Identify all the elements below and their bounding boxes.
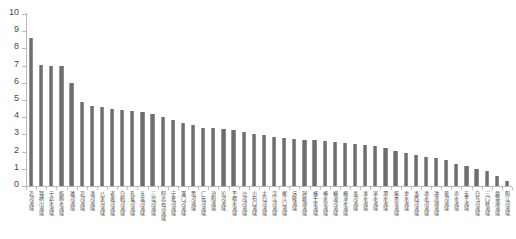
x-axis-tick-mark bbox=[178, 187, 179, 190]
bar bbox=[302, 140, 306, 186]
bar bbox=[211, 128, 215, 186]
category-label: 太白河流域 bbox=[261, 191, 266, 216]
bar bbox=[181, 123, 185, 186]
x-axis-tick-mark bbox=[158, 187, 159, 190]
bar bbox=[39, 65, 43, 186]
category-label: 平都水流域 bbox=[231, 191, 236, 216]
bar bbox=[272, 137, 276, 186]
bar bbox=[505, 181, 509, 186]
x-axis-tick-mark bbox=[431, 187, 432, 190]
bar bbox=[353, 144, 357, 186]
x-axis-tick-mark bbox=[461, 187, 462, 190]
x-axis-tick-mark bbox=[441, 187, 442, 190]
x-axis-tick-mark bbox=[482, 187, 483, 190]
x-axis-tick-mark bbox=[117, 187, 118, 190]
bar bbox=[171, 120, 175, 186]
category-label: 横漳水流域 bbox=[342, 191, 347, 216]
x-axis-tick-mark bbox=[370, 187, 371, 190]
bar bbox=[252, 134, 256, 186]
bar bbox=[231, 130, 235, 186]
category-label: 阿克苏河流域 bbox=[160, 191, 165, 221]
x-axis-tick-mark bbox=[279, 187, 280, 190]
category-label: 洛西河流域 bbox=[413, 191, 418, 216]
x-axis-tick-mark bbox=[77, 187, 78, 190]
x-axis-tick-mark bbox=[198, 187, 199, 190]
bar bbox=[80, 102, 84, 186]
bar bbox=[140, 112, 144, 186]
category-label: 汉江河流域 bbox=[272, 191, 277, 216]
category-label: 黑河流域 bbox=[191, 191, 196, 211]
x-tick-marks bbox=[26, 187, 512, 190]
category-label: 沙河河流域 bbox=[241, 191, 246, 216]
x-axis-tick-mark bbox=[421, 187, 422, 190]
bar bbox=[333, 142, 337, 186]
category-label: 阳江河流域 bbox=[504, 191, 509, 216]
bar bbox=[312, 140, 316, 186]
category-label: 潍河流域 bbox=[69, 191, 74, 211]
category-label: 泉水流域 bbox=[373, 191, 378, 211]
category-label: 白鹤河流域 bbox=[120, 191, 125, 216]
bar bbox=[343, 143, 347, 186]
category-label: 八里沟流域 bbox=[99, 191, 104, 216]
x-axis-tick-mark bbox=[188, 187, 189, 190]
x-axis-tick-mark bbox=[67, 187, 68, 190]
bar bbox=[454, 164, 458, 186]
category-label: 横漳河流域 bbox=[332, 191, 337, 216]
bar bbox=[404, 153, 408, 186]
category-label: 横千里流域 bbox=[312, 191, 317, 216]
bar bbox=[444, 160, 448, 186]
x-axis-tick-mark bbox=[36, 187, 37, 190]
y-axis-tick-label: 8 bbox=[14, 42, 19, 51]
y-axis-tick-label: 9 bbox=[14, 25, 19, 34]
category-label: 金水流域 bbox=[403, 191, 408, 211]
category-labels: 沂河流域锦绣川流域宁武水流域临朐水流域潍河流域沂河流域洮河流域八里沟流域老黄河流… bbox=[26, 191, 512, 239]
category-label: 小石口流域 bbox=[251, 191, 256, 216]
x-axis-tick-mark bbox=[340, 187, 341, 190]
bar bbox=[495, 176, 499, 186]
bar bbox=[29, 38, 33, 186]
x-axis-tick-mark bbox=[259, 187, 260, 190]
category-label: 渭水流域 bbox=[383, 191, 388, 211]
x-axis-tick-mark bbox=[380, 187, 381, 190]
bar bbox=[292, 139, 296, 186]
category-label: 沂河流域 bbox=[29, 191, 34, 211]
bar bbox=[434, 158, 438, 186]
x-axis-tick-mark bbox=[472, 187, 473, 190]
bar bbox=[59, 66, 63, 186]
x-axis-tick-mark bbox=[330, 187, 331, 190]
category-label: 锦绣川流域 bbox=[39, 191, 44, 216]
bar bbox=[282, 138, 286, 186]
bar bbox=[69, 83, 73, 186]
x-axis-tick-mark bbox=[289, 187, 290, 190]
category-label: 岷江口流域 bbox=[282, 191, 287, 216]
category-label: 赤水流域 bbox=[454, 191, 459, 211]
category-label: 黄河流域 bbox=[444, 191, 449, 211]
x-axis-tick-mark bbox=[137, 187, 138, 190]
bar bbox=[242, 132, 246, 186]
x-axis-tick-mark bbox=[56, 187, 57, 190]
x-axis-tick-mark bbox=[26, 187, 27, 190]
category-label: 沂河流域 bbox=[79, 191, 84, 211]
x-axis-tick-mark bbox=[148, 187, 149, 190]
x-axis-tick-mark bbox=[360, 187, 361, 190]
y-axis-tick-label: 3 bbox=[14, 128, 19, 137]
bar bbox=[49, 66, 53, 186]
bar bbox=[191, 125, 195, 186]
category-label: 汾阳流域 bbox=[211, 191, 216, 211]
y-axis-tick-label: 0 bbox=[14, 180, 19, 189]
bar bbox=[414, 155, 418, 186]
category-label: 柴木草流域 bbox=[393, 191, 398, 216]
x-axis-tick-mark bbox=[391, 187, 392, 190]
x-axis-tick-mark bbox=[512, 187, 513, 190]
bar bbox=[150, 114, 154, 186]
x-axis-tick-mark bbox=[46, 187, 47, 190]
bar bbox=[100, 107, 104, 186]
category-label: 清水河流域 bbox=[423, 191, 428, 216]
x-axis-tick-mark bbox=[97, 187, 98, 190]
category-label: 三岔河流域 bbox=[150, 191, 155, 216]
bar bbox=[221, 129, 225, 186]
x-axis-tick-mark bbox=[451, 187, 452, 190]
x-axis-tick-mark bbox=[107, 187, 108, 190]
category-label: 老黄河流域 bbox=[110, 191, 115, 216]
bar bbox=[90, 106, 94, 186]
